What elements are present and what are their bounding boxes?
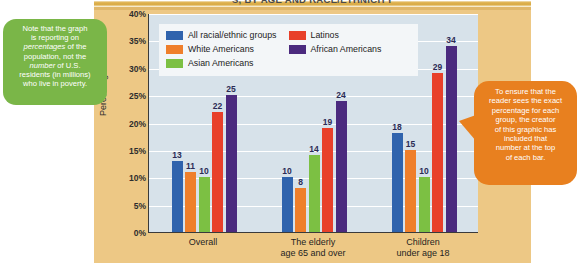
annotation-orange-line1: To ensure that the [495, 87, 556, 96]
y-axis-tick-label: 25% [116, 91, 146, 101]
x-axis-category-label: Overall [148, 237, 258, 248]
x-axis-category-label-line: Children [368, 237, 478, 248]
page-margin-bottom-right [531, 185, 580, 270]
bar-value-label: 15 [400, 139, 422, 149]
legend-column-right: LatinosAfrican Americans [289, 29, 412, 71]
legend-item[interactable]: White Americans [166, 43, 289, 55]
bar-value-label: 34 [440, 35, 462, 45]
y-axis-ticks: 0%5%10%15%20%25%30%35%40% [110, 14, 146, 233]
y-axis-tick-label: 5% [116, 201, 146, 211]
annotation-orange-line2: reader sees the exact [489, 96, 562, 105]
panel-top-edge [94, 7, 531, 10]
bar-value-label: 10 [276, 166, 298, 176]
legend-swatch-icon [289, 45, 306, 54]
y-axis-tick-label: 40% [116, 9, 146, 19]
x-axis-category-label-line: age 65 and over [258, 248, 368, 259]
annotation-green-line5b: of U.S. [55, 61, 80, 70]
legend-label: Latinos [311, 30, 339, 40]
annotation-green-line5a: number [29, 61, 55, 70]
bar[interactable]: 15 [405, 150, 416, 232]
bar-value-label: 24 [330, 90, 352, 100]
annotation-green-line4: population, not the [24, 52, 87, 61]
annotation-orange-line7: number at the top [496, 143, 556, 152]
legend-item[interactable]: Latinos [289, 29, 412, 41]
x-axis-category-label-line: The elderly [258, 237, 368, 248]
legend-swatch-icon [166, 59, 183, 68]
y-axis-tick-label: 10% [116, 173, 146, 183]
figure-page: S, BY AGE AND RACE/ETHNICITY Percentage … [0, 0, 580, 270]
legend-item[interactable]: African Americans [289, 43, 412, 55]
legend-swatch-icon [289, 31, 306, 40]
legend-label: African Americans [311, 44, 382, 54]
x-axis-category-label-line: under age 18 [368, 248, 478, 259]
bar[interactable]: 19 [322, 128, 333, 232]
legend-swatch-icon [166, 45, 183, 54]
legend-label: Asian Americans [188, 58, 254, 68]
y-axis-tick-label: 20% [116, 119, 146, 129]
legend-swatch-icon [166, 31, 183, 40]
annotation-orange-line3: percentage for each [492, 106, 560, 115]
legend-item[interactable]: Asian Americans [166, 57, 289, 69]
legend-column-left: All racial/ethnic groupsWhite AmericansA… [166, 29, 289, 71]
annotation-green-line2: is reporting on [31, 33, 79, 42]
page-margin-top-right [531, 0, 580, 81]
annotation-callout-percentages: Note that the graph is reporting on perc… [3, 19, 107, 105]
page-margin-bottom [0, 263, 580, 270]
bar[interactable]: 13 [172, 161, 183, 232]
figure-title: S, BY AGE AND RACE/ETHNICITY [94, 0, 531, 5]
annotation-orange-tail [459, 115, 476, 141]
legend-label: White Americans [188, 44, 254, 54]
bar[interactable]: 11 [185, 172, 196, 232]
chart-legend: All racial/ethnic groupsWhite AmericansA… [159, 24, 418, 76]
bar[interactable]: 24 [336, 101, 347, 232]
bar[interactable]: 14 [309, 155, 320, 232]
x-axis-category-label: Childrenunder age 18 [368, 237, 478, 259]
annotation-callout-data-labels: To ensure that the reader sees the exact… [474, 81, 577, 185]
bar[interactable]: 22 [212, 112, 223, 232]
bar[interactable]: 29 [432, 73, 443, 232]
x-axis-category-label-line: Overall [148, 237, 258, 248]
annotation-green-line6: residents (in millions) [19, 70, 90, 79]
y-axis-tick-label: 15% [116, 146, 146, 156]
y-axis-tick-label: 30% [116, 64, 146, 74]
legend-item[interactable]: All racial/ethnic groups [166, 29, 289, 41]
annotation-orange-line8: of each bar. [506, 153, 546, 162]
bar[interactable]: 25 [226, 95, 237, 232]
bar[interactable]: 10 [199, 177, 210, 232]
bar[interactable]: 10 [419, 177, 430, 232]
y-axis-tick-label: 35% [116, 36, 146, 46]
annotation-green-line3a: percentages [24, 42, 66, 51]
page-margin-top-left [0, 0, 94, 19]
bar[interactable]: 8 [295, 188, 306, 232]
annotation-green-line1: Note that the graph [22, 24, 87, 33]
legend-label: All racial/ethnic groups [188, 30, 277, 40]
bar-value-label: 18 [386, 122, 408, 132]
bar-value-label: 13 [166, 150, 188, 160]
annotation-orange-line6: included that [504, 134, 547, 143]
annotation-green-line7: who live in poverty. [23, 79, 87, 88]
annotation-orange-line4: group, the creator [496, 115, 556, 124]
bar[interactable]: 34 [446, 46, 457, 232]
annotation-green-line3b: of the [65, 42, 86, 51]
annotation-orange-line5: of this graphic has [495, 125, 557, 134]
bar-value-label: 25 [220, 84, 242, 94]
y-axis-tick-label: 0% [116, 228, 146, 238]
figure-title-band: S, BY AGE AND RACE/ETHNICITY [94, 0, 531, 7]
x-axis-category-label: The elderlyage 65 and over [258, 237, 368, 259]
page-margin-bottom-left [0, 105, 94, 270]
